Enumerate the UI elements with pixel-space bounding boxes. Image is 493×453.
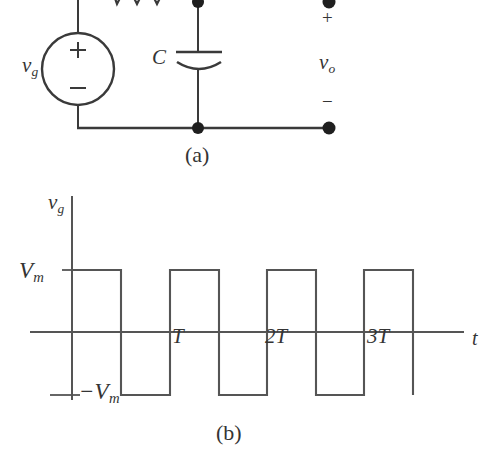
capacitor-plate-bottom-curved xyxy=(177,62,221,69)
node-dot-cap-bottom xyxy=(192,122,204,134)
xtick-label-t1: T xyxy=(172,326,184,347)
xtick-label-t2: 2T xyxy=(265,326,287,347)
circuit-schematic xyxy=(42,0,336,135)
capacitor-label: C xyxy=(152,47,166,68)
source-plus-icon xyxy=(70,42,86,58)
resistor-symbol xyxy=(110,0,167,4)
y-axis-label: vg xyxy=(48,192,64,213)
source-label: vg xyxy=(22,55,38,76)
node-dot-cap-top xyxy=(192,0,204,8)
output-voltage-label: vo xyxy=(319,52,335,73)
panel-b-caption: (b) xyxy=(216,422,242,444)
ytick-label-positive: Vm xyxy=(19,259,44,282)
waveform-plot xyxy=(30,196,464,400)
xtick-label-t3: 3T xyxy=(367,326,389,347)
output-plus-label: + xyxy=(322,8,333,27)
terminal-dot-output-bottom xyxy=(323,122,336,135)
ytick-label-negative: −Vm xyxy=(79,380,119,403)
x-axis-label: t xyxy=(472,328,478,348)
figure-container: vg C + vo − (a) vg Vm −Vm T 2T 3T t (b) xyxy=(0,0,493,453)
output-minus-label: − xyxy=(322,92,333,111)
figure-vector-layer xyxy=(0,0,493,453)
panel-a-caption: (a) xyxy=(185,144,209,166)
